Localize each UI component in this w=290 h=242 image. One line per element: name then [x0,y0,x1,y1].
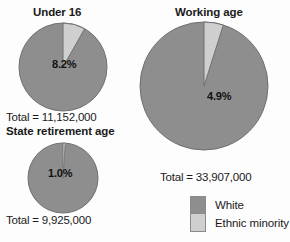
legend: White Ethnic minority [190,196,289,232]
under-16-pct-label: 8.2% [52,58,76,70]
under-16-total-label: Total = 11,152,000 [6,111,97,123]
working-age-pct-label: 4.9% [207,90,231,102]
under-16-title: Under 16 [33,6,81,18]
legend-label-white: White [215,199,244,211]
working-age-pie [139,21,269,151]
legend-label-ethnic-minority: Ethnic minority [215,217,289,229]
state-retirement-age-pct-label: 1.0% [48,167,72,179]
state-retirement-age-title: State retirement age [6,125,115,137]
legend-swatch-white-icon [190,196,206,214]
legend-swatch-ethnic-minority-icon [190,214,206,232]
working-age-title: Working age [175,6,243,18]
pie-chart-figure: Under 16 8.2% Total = 11,152,000 State r… [0,0,290,242]
state-retirement-age-total-label: Total = 9,925,000 [6,214,91,226]
working-age-total-label: Total = 33,907,000 [160,171,251,183]
legend-row-white: White [190,196,289,214]
legend-row-minority: Ethnic minority [190,214,289,232]
